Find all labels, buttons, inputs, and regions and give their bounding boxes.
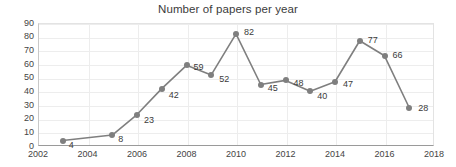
- gridline-vertical: [287, 24, 288, 145]
- y-tick-label: 10: [0, 128, 34, 137]
- gridline-vertical: [89, 24, 90, 145]
- chart-title: Number of papers per year: [0, 3, 456, 15]
- x-tick-label: 2012: [275, 150, 295, 159]
- gridline-horizontal: [39, 79, 433, 80]
- data-point-marker: [134, 112, 140, 118]
- gridline-vertical: [237, 24, 238, 145]
- y-tick-label: 30: [0, 101, 34, 110]
- y-tick-label: 50: [0, 73, 34, 82]
- gridline-vertical: [138, 24, 139, 145]
- data-point-marker: [332, 79, 338, 85]
- data-point-marker: [60, 138, 66, 144]
- x-tick-label: 2004: [77, 150, 97, 159]
- data-point-marker: [258, 82, 264, 88]
- x-tick-label: 2010: [226, 150, 246, 159]
- gridline-horizontal: [39, 24, 433, 25]
- data-point-label: 48: [294, 79, 304, 88]
- data-point-label: 47: [343, 80, 353, 89]
- x-tick-label: 2008: [176, 150, 196, 159]
- data-point-marker: [382, 53, 388, 59]
- gridline-horizontal: [39, 133, 433, 134]
- x-tick-label: 2006: [127, 150, 147, 159]
- x-tick-label: 2018: [424, 150, 444, 159]
- gridline-horizontal: [39, 65, 433, 66]
- gridline-horizontal: [39, 106, 433, 107]
- data-point-label: 23: [144, 116, 154, 125]
- y-tick-label: 60: [0, 60, 34, 69]
- x-tick-label: 2002: [28, 150, 48, 159]
- data-point-label: 40: [317, 92, 327, 101]
- data-point-label: 28: [418, 104, 428, 113]
- data-point-label: 4: [69, 141, 74, 150]
- data-point-label: 77: [368, 36, 378, 45]
- data-point-marker: [159, 86, 165, 92]
- y-tick-label: 80: [0, 32, 34, 41]
- data-point-marker: [406, 105, 412, 111]
- y-tick-label: 90: [0, 19, 34, 28]
- data-point-label: 82: [244, 28, 254, 37]
- gridline-horizontal: [39, 51, 433, 52]
- y-tick-label: 40: [0, 87, 34, 96]
- data-point-label: 66: [393, 51, 403, 60]
- data-point-label: 45: [268, 84, 278, 93]
- gridline-horizontal: [39, 92, 433, 93]
- y-tick-label: 70: [0, 46, 34, 55]
- data-point-marker: [184, 62, 190, 68]
- data-point-marker: [357, 38, 363, 44]
- data-point-label: 59: [194, 63, 204, 72]
- data-point-label: 8: [118, 135, 123, 144]
- y-tick-label: 20: [0, 114, 34, 123]
- x-tick-label: 2016: [374, 150, 394, 159]
- data-point-label: 52: [219, 75, 229, 84]
- gridline-vertical: [188, 24, 189, 145]
- line-chart: Number of papers per year 48234259528245…: [0, 0, 456, 167]
- gridline-vertical: [386, 24, 387, 145]
- data-point-label: 42: [169, 91, 179, 100]
- gridline-horizontal: [39, 120, 433, 121]
- x-tick-label: 2014: [325, 150, 345, 159]
- data-point-marker: [283, 77, 289, 83]
- data-point-marker: [233, 31, 239, 37]
